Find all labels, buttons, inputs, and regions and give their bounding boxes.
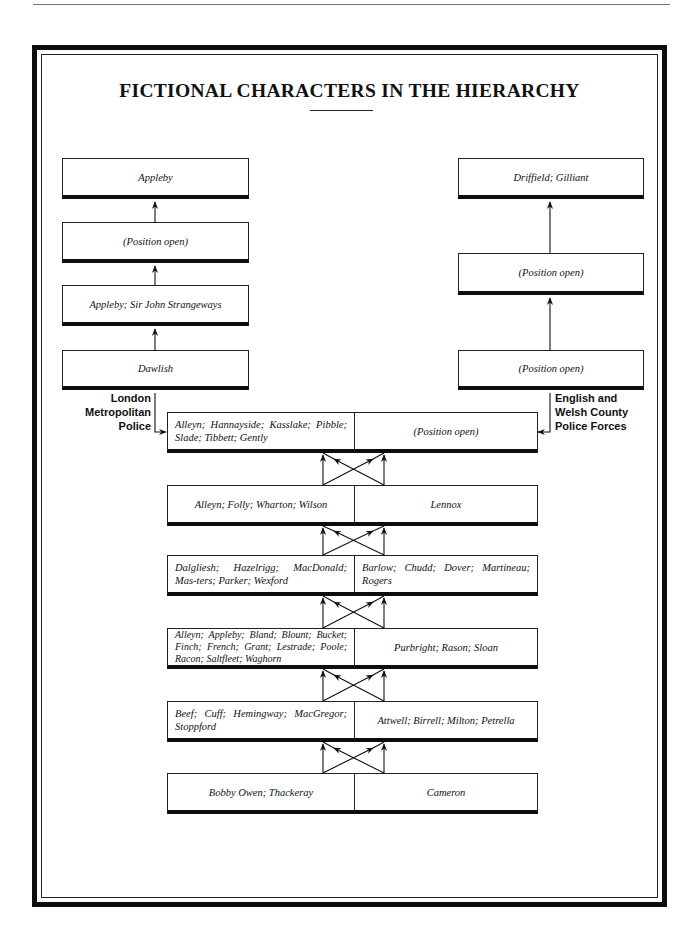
- center-rank-row-4: Alleyn; Appleby; Bland; Blount; Bucket; …: [167, 628, 538, 669]
- row-right-cell: Barlow; Chudd; Dover; Martineau; Rogers: [355, 556, 537, 592]
- cell-text: Cameron: [355, 786, 537, 799]
- right-rank-box-3: (Position open): [458, 350, 644, 390]
- label-line: Police Forces: [555, 419, 628, 433]
- cell-text: Dalgliesh; Hazelrigg; MacDonald; Mas-ter…: [168, 561, 354, 587]
- label-line: Welsh County: [555, 405, 628, 419]
- row-left-cell: Dalgliesh; Hazelrigg; MacDonald; Mas-ter…: [168, 556, 355, 592]
- english-welsh-county-police-label: English and Welsh County Police Forces: [555, 391, 628, 433]
- cell-text: Bobby Owen; Thackeray: [168, 786, 354, 799]
- left-rank-box-4: Dawlish: [62, 350, 249, 390]
- row-right-cell: Lennox: [355, 486, 537, 522]
- label-line: English and: [555, 391, 628, 405]
- right-rank-box-2: (Position open): [458, 253, 644, 295]
- center-rank-row-3: Dalgliesh; Hazelrigg; MacDonald; Mas-ter…: [167, 555, 538, 596]
- label-line: Police: [95, 419, 151, 433]
- cell-text: Purbright; Rason; Sloan: [355, 641, 537, 654]
- row-left-cell: Alleyn; Appleby; Bland; Blount; Bucket; …: [168, 629, 355, 665]
- cell-text: (Position open): [355, 425, 537, 438]
- label-line: Metropolitan: [75, 405, 151, 419]
- center-rank-row-5: Beef; Cuff; Hemingway; MacGregor; Stoppf…: [167, 701, 538, 742]
- left-rank-box-3: Appleby; Sir John Strangeways: [62, 285, 249, 326]
- center-rank-row-2: Alleyn; Folly; Wharton; Wilson Lennox: [167, 485, 538, 526]
- row-left-cell: Beef; Cuff; Hemingway; MacGregor; Stoppf…: [168, 702, 355, 738]
- box-text: Appleby; Sir John Strangeways: [83, 298, 227, 311]
- cell-text: Alleyn; Folly; Wharton; Wilson: [168, 498, 354, 511]
- box-text: (Position open): [512, 266, 589, 279]
- box-text: Appleby: [132, 171, 178, 184]
- cell-text: Alleyn; Hannayside; Kasslake; Pibble; Sl…: [168, 418, 354, 444]
- left-rank-box-2: (Position open): [62, 222, 249, 263]
- row-left-cell: Alleyn; Hannayside; Kasslake; Pibble; Sl…: [168, 413, 355, 449]
- center-rank-row-1: Alleyn; Hannayside; Kasslake; Pibble; Sl…: [167, 412, 538, 453]
- row-right-cell: (Position open): [355, 413, 537, 449]
- row-right-cell: Attwell; Birrell; Milton; Petrella: [355, 702, 537, 738]
- box-text: (Position open): [117, 235, 194, 248]
- row-left-cell: Alleyn; Folly; Wharton; Wilson: [168, 486, 355, 522]
- box-text: (Position open): [512, 362, 589, 375]
- cell-text: Beef; Cuff; Hemingway; MacGregor; Stoppf…: [168, 707, 354, 733]
- cell-text: Barlow; Chudd; Dover; Martineau; Rogers: [355, 561, 537, 587]
- label-line: London: [95, 391, 151, 405]
- row-right-cell: Cameron: [355, 774, 537, 810]
- row-left-cell: Bobby Owen; Thackeray: [168, 774, 355, 810]
- box-text: Dawlish: [132, 362, 179, 375]
- cell-text: Attwell; Birrell; Milton; Petrella: [355, 714, 537, 727]
- london-metropolitan-police-label: London Metropolitan Police: [95, 391, 151, 433]
- center-rank-row-6: Bobby Owen; Thackeray Cameron: [167, 773, 538, 814]
- box-text: Driffield; Gilliant: [508, 171, 595, 184]
- left-rank-box-1: Appleby: [62, 158, 249, 199]
- cell-text: Lennox: [355, 498, 537, 511]
- right-rank-box-1: Driffield; Gilliant: [458, 158, 644, 199]
- row-right-cell: Purbright; Rason; Sloan: [355, 629, 537, 665]
- cell-text: Alleyn; Appleby; Bland; Blount; Bucket; …: [168, 629, 354, 665]
